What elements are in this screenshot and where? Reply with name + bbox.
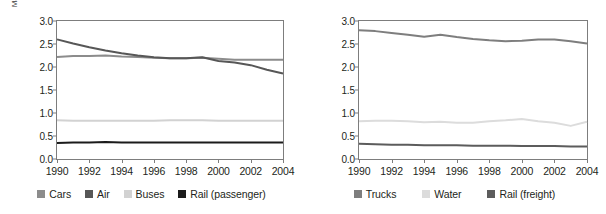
series-line: [359, 144, 587, 147]
legend-label: Buses: [136, 188, 165, 200]
legend-freight: TrucksWaterRail (freight): [303, 188, 606, 200]
x-axis-tick-mark: [359, 159, 360, 163]
legend-label: Trucks: [366, 188, 397, 200]
x-axis-tick-label: 1996: [445, 165, 468, 177]
y-axis-tick-mark: [53, 67, 57, 68]
x-axis-tick-mark: [218, 159, 219, 163]
y-axis-tick-mark: [355, 90, 359, 91]
legend-item: Water: [422, 188, 461, 200]
x-axis-tick-mark: [154, 159, 155, 163]
x-axis-tick-label: 1998: [175, 165, 198, 177]
figure-container: MJ/passenger km 0.00.51.01.52.02.53.0199…: [0, 0, 606, 214]
y-axis-label-passenger: MJ/passenger km: [10, 0, 19, 30]
legend-swatch-icon: [178, 190, 186, 198]
x-axis-tick-label: 1994: [110, 165, 133, 177]
x-axis-tick-label: 2004: [272, 165, 295, 177]
series-line: [359, 119, 587, 126]
legend-item: Buses: [124, 188, 165, 200]
x-axis-tick-mark: [57, 159, 58, 163]
legend-item: Cars: [37, 188, 71, 200]
legend-swatch-icon: [37, 190, 45, 198]
y-axis-label-freight: MJ/tonne km: [313, 0, 322, 30]
series-line: [359, 30, 587, 43]
y-axis-tick-mark: [355, 136, 359, 137]
x-axis-tick-label: 1992: [380, 165, 403, 177]
legend-swatch-icon: [124, 190, 132, 198]
x-axis-tick-mark: [457, 159, 458, 163]
x-axis-tick-mark: [554, 159, 555, 163]
legend-item: Air: [85, 188, 110, 200]
x-axis-tick-label: 2002: [543, 165, 566, 177]
y-axis-tick-mark: [53, 136, 57, 137]
x-axis-tick-mark: [489, 159, 490, 163]
legend-label: Air: [97, 188, 110, 200]
y-axis-tick-mark: [53, 90, 57, 91]
y-axis-tick-mark: [53, 21, 57, 22]
legend-label: Rail (passenger): [190, 188, 265, 200]
legend-label: Water: [434, 188, 461, 200]
x-axis-tick-mark: [186, 159, 187, 163]
x-axis-tick-mark: [522, 159, 523, 163]
x-axis-tick-mark: [89, 159, 90, 163]
x-axis-tick-label: 2002: [239, 165, 262, 177]
legend-swatch-icon: [85, 190, 93, 198]
legend-item: Rail (passenger): [178, 188, 265, 200]
x-axis-tick-mark: [122, 159, 123, 163]
y-axis-tick-mark: [355, 113, 359, 114]
x-axis-tick-mark: [283, 159, 284, 163]
x-axis-tick-label: 2000: [207, 165, 230, 177]
plot-area-freight: 0.00.51.01.52.02.53.01990199219941996199…: [358, 20, 588, 160]
legend-label: Rail (freight): [499, 188, 555, 200]
x-axis-tick-mark: [424, 159, 425, 163]
legend-passenger: CarsAirBusesRail (passenger): [0, 188, 303, 200]
y-axis-tick-mark: [355, 67, 359, 68]
legend-swatch-icon: [354, 190, 362, 198]
x-axis-tick-label: 1990: [348, 165, 371, 177]
x-axis-tick-mark: [392, 159, 393, 163]
x-axis-tick-label: 1990: [46, 165, 69, 177]
series-line: [57, 142, 283, 143]
x-axis-tick-label: 1998: [478, 165, 501, 177]
x-axis-tick-label: 1992: [78, 165, 101, 177]
y-axis-tick-mark: [355, 21, 359, 22]
y-axis-tick-mark: [53, 113, 57, 114]
legend-item: Trucks: [354, 188, 397, 200]
chart-panel-freight: MJ/tonne km 0.00.51.01.52.02.53.01990199…: [303, 0, 606, 214]
legend-label: Cars: [49, 188, 71, 200]
y-axis-tick-mark: [53, 44, 57, 45]
x-axis-tick-label: 2004: [576, 165, 599, 177]
legend-item: Rail (freight): [487, 188, 555, 200]
line-chart-passenger: [57, 21, 283, 159]
x-axis-tick-label: 2000: [511, 165, 534, 177]
chart-panel-passenger: MJ/passenger km 0.00.51.01.52.02.53.0199…: [0, 0, 303, 214]
plot-area-passenger: 0.00.51.01.52.02.53.01990199219941996199…: [56, 20, 284, 160]
y-axis-tick-mark: [355, 44, 359, 45]
legend-swatch-icon: [422, 190, 430, 198]
x-axis-tick-label: 1994: [413, 165, 436, 177]
line-chart-freight: [359, 21, 587, 159]
x-axis-tick-mark: [587, 159, 588, 163]
x-axis-tick-mark: [251, 159, 252, 163]
legend-swatch-icon: [487, 190, 495, 198]
x-axis-tick-label: 1996: [143, 165, 166, 177]
